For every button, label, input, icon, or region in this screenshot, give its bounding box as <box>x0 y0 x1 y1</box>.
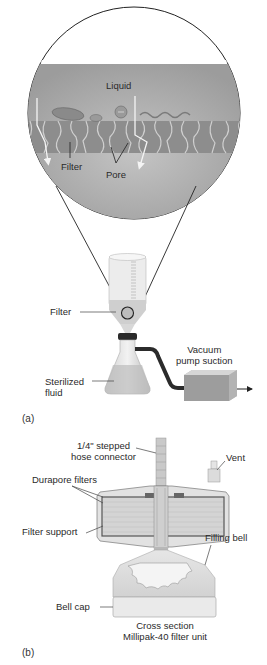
panel-a-label: (a) <box>22 413 34 424</box>
hose-connector-line1: 1/4" stepped <box>71 440 136 451</box>
panel-b-label: (b) <box>22 647 34 658</box>
caption-line1: Cross section <box>115 620 215 631</box>
bell-cap <box>113 597 216 617</box>
filter-support-label: Filter support <box>22 526 77 537</box>
sterilized-fluid-line2: fluid <box>45 387 84 398</box>
filling-bell-label: Filling bell <box>205 532 247 543</box>
vacuum-pump-box <box>184 370 252 401</box>
caption-line2: Millipak-40 filter unit <box>115 631 215 642</box>
cross-section-caption: Cross section Millipak-40 filter unit <box>115 620 215 642</box>
vacuum-line1: Vacuum <box>176 344 233 355</box>
millipak-filter-unit <box>97 438 229 617</box>
vent-label: Vent <box>226 452 245 463</box>
filter-membrane-label: Filter <box>61 161 82 172</box>
sterilized-fluid-label: Sterilized fluid <box>45 376 84 398</box>
hose-connector-label: 1/4" stepped hose connector <box>71 440 136 462</box>
diagram-canvas <box>0 0 267 665</box>
vacuum-pump-label: Vacuum pump suction <box>176 344 233 366</box>
pore-label: Pore <box>106 169 126 180</box>
liquid-label: Liquid <box>106 80 131 91</box>
magnified-filter-view <box>20 7 250 224</box>
vacuum-line2: pump suction <box>176 355 233 366</box>
hose-connector-line2: hose connector <box>71 451 136 462</box>
durapore-filters-label: Durapore filters <box>32 474 97 485</box>
filter-label: Filter <box>50 306 71 317</box>
filter-funnel <box>105 254 184 395</box>
sterilized-fluid-line1: Sterilized <box>45 376 84 387</box>
bell-cap-label: Bell cap <box>56 601 90 612</box>
